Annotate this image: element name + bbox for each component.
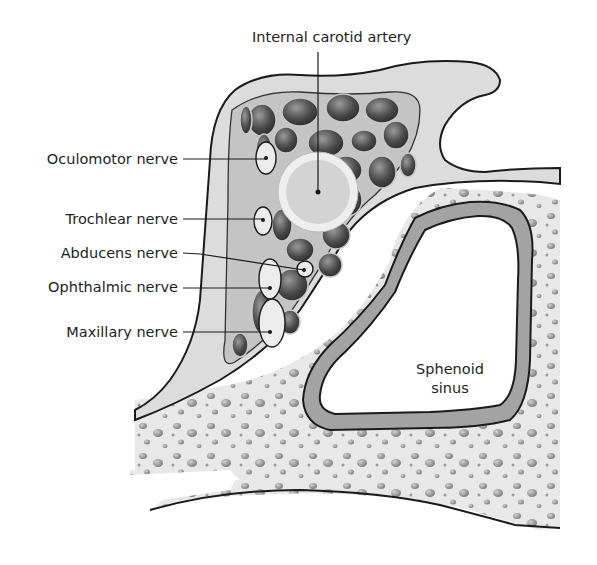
label-sphenoid-sinus-line1: Sphenoid: [400, 362, 500, 377]
label-internal-carotid-artery: Internal carotid artery: [252, 30, 392, 45]
label-maxillary-nerve: Maxillary nerve: [10, 325, 178, 340]
label-sphenoid-sinus-line2: sinus: [400, 381, 500, 396]
label-trochlear-nerve: Trochlear nerve: [10, 212, 178, 227]
label-ophthalmic-nerve: Ophthalmic nerve: [10, 280, 178, 295]
label-abducens-nerve: Abducens nerve: [10, 246, 178, 261]
cavernous-sinus-diagram: Internal carotid artery Oculomotor nerve…: [0, 0, 597, 565]
label-oculomotor-nerve: Oculomotor nerve: [10, 152, 178, 167]
maxillary-nerve-shape: [259, 299, 285, 347]
